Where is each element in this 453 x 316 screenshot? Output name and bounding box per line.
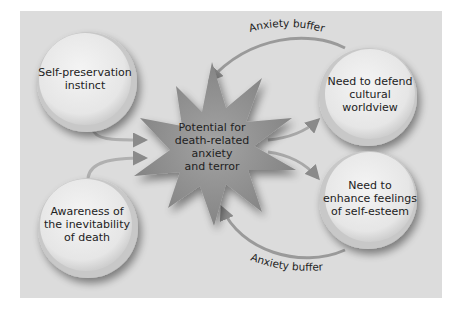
label-line: Self-preservation [37,66,133,79]
label-line: the inevitability [36,218,138,231]
label-line: Need to defend [322,75,418,88]
anxiety-buffer-label-top: Anxiety buffer [247,17,327,34]
label-line: Potential for [166,121,258,134]
label-line: anxiety [166,147,258,160]
anxiety-buffer-label-bottom: Anxiety buffer [249,251,324,273]
label-line: and terror [166,160,258,173]
label-line: enhance feelings [322,192,418,205]
label-self-esteem: Need to enhance feelings of self-esteem [322,179,418,218]
label-self-preservation: Self-preservation instinct [37,66,133,92]
label-line: Need to [322,179,418,192]
label-line: instinct [37,79,133,92]
label-awareness-death: Awareness of the inevitability of death [36,205,138,244]
label-line: cultural [322,88,418,101]
label-line: of self-esteem [322,205,418,218]
svg-text:Anxiety buffer: Anxiety buffer [249,251,324,273]
label-potential-anxiety: Potential for death-related anxiety and … [166,121,258,173]
anxiety-buffer-arrow-top [210,38,345,80]
label-defend-worldview: Need to defend cultural worldview [322,75,418,114]
label-line: Awareness of [36,205,138,218]
svg-text:Anxiety buffer: Anxiety buffer [247,17,327,34]
label-line: death-related [166,134,258,147]
label-line: of death [36,231,138,244]
label-line: worldview [322,101,418,114]
